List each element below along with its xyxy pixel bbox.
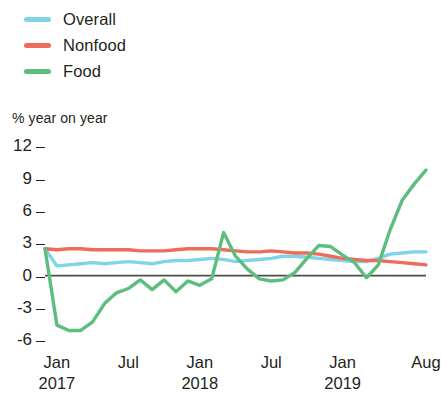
y-tick-label: 3 — [23, 233, 32, 253]
plot-area: 129630-3-6 — [45, 140, 426, 352]
y-tick-mark — [36, 277, 45, 278]
x-tick-label: Jan — [44, 353, 71, 371]
x-axis-ticks: Jan2017JulJan2018JulJan2019Aug — [45, 352, 426, 396]
legend-label-nonfood: Nonfood — [63, 37, 126, 54]
legend-item-food: Food — [24, 58, 126, 84]
y-tick-label: 6 — [23, 201, 32, 221]
x-tick-1: Jul — [118, 352, 139, 373]
y-tick-label: 0 — [23, 266, 32, 286]
y-tick-label: -3 — [17, 298, 32, 318]
legend-item-overall: Overall — [24, 6, 126, 32]
x-tick-year: 2017 — [39, 373, 76, 394]
legend-swatch-nonfood — [24, 43, 51, 48]
legend-item-nonfood: Nonfood — [24, 32, 126, 58]
y-tick-mark — [36, 244, 45, 245]
y-tick-12: 12 — [13, 136, 45, 156]
y-tick-minus6: -6 — [17, 330, 45, 350]
legend-label-food: Food — [63, 63, 101, 80]
x-tick-0: Jan2017 — [39, 352, 76, 394]
y-tick-3: 3 — [23, 233, 45, 253]
x-tick-year: 2019 — [324, 373, 361, 394]
x-tick-label: Jan — [329, 353, 356, 371]
x-tick-5: Aug — [411, 352, 440, 373]
y-tick-label: 12 — [13, 136, 32, 156]
series-canvas — [45, 140, 426, 352]
y-tick-9: 9 — [23, 169, 45, 189]
x-tick-year: 2018 — [181, 373, 218, 394]
y-tick-6: 6 — [23, 201, 45, 221]
y-tick-mark — [36, 147, 45, 148]
x-tick-3: Jul — [261, 352, 282, 373]
y-axis-title: % year on year — [12, 110, 108, 126]
legend-swatch-food — [24, 69, 51, 74]
y-tick-0: 0 — [23, 266, 45, 286]
y-tick-label: 9 — [23, 169, 32, 189]
x-tick-label: Jul — [118, 353, 139, 371]
x-tick-label: Jan — [186, 353, 213, 371]
legend-label-overall: Overall — [63, 11, 116, 28]
y-tick-label: -6 — [17, 330, 32, 350]
x-tick-2: Jan2018 — [181, 352, 218, 394]
chart-legend: Overall Nonfood Food — [24, 6, 126, 84]
y-tick-minus3: -3 — [17, 298, 45, 318]
x-tick-label: Jul — [261, 353, 282, 371]
series-group — [45, 170, 426, 330]
x-tick-label: Aug — [411, 353, 440, 371]
y-tick-mark — [36, 309, 45, 310]
y-tick-mark — [36, 180, 45, 181]
x-tick-4: Jan2019 — [324, 352, 361, 394]
y-tick-mark — [36, 212, 45, 213]
legend-swatch-overall — [24, 17, 51, 22]
y-tick-mark — [36, 341, 45, 342]
